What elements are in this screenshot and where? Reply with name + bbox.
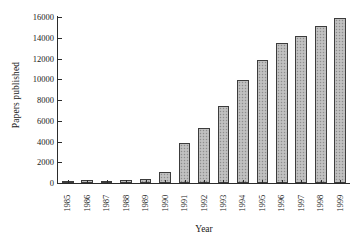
y-tick-label: 14000 bbox=[33, 34, 54, 43]
bar bbox=[295, 36, 307, 183]
x-tick-mark bbox=[87, 180, 88, 184]
y-tick-mark bbox=[57, 183, 62, 184]
y-tick-mark bbox=[57, 79, 62, 80]
bar bbox=[237, 80, 249, 183]
y-tick-label: 0 bbox=[50, 179, 54, 188]
y-tick-mark bbox=[57, 17, 62, 18]
y-tick-label: 6000 bbox=[37, 117, 54, 126]
x-tick-mark bbox=[126, 180, 127, 184]
x-tick-mark bbox=[165, 180, 166, 184]
y-tick-label: 4000 bbox=[37, 137, 54, 146]
chart-figure: Papers published 02000400060008000100001… bbox=[0, 0, 361, 244]
x-tick-mark bbox=[68, 180, 69, 184]
y-tick-mark bbox=[57, 59, 62, 60]
bar bbox=[315, 26, 327, 183]
x-tick-mark bbox=[243, 180, 244, 184]
x-tick-mark bbox=[146, 180, 147, 184]
y-tick-mark bbox=[57, 100, 62, 101]
y-tick-label: 2000 bbox=[37, 158, 54, 167]
y-tick-label: 12000 bbox=[33, 54, 54, 63]
bar bbox=[257, 60, 269, 183]
x-tick-mark bbox=[340, 180, 341, 184]
bar bbox=[218, 106, 230, 183]
x-axis-title: Year bbox=[58, 224, 350, 234]
x-tick-label: 1999 bbox=[320, 187, 360, 221]
y-tick-label: 16000 bbox=[33, 13, 54, 22]
x-tick-mark bbox=[282, 180, 283, 184]
y-tick-mark bbox=[57, 38, 62, 39]
bar bbox=[179, 143, 191, 183]
y-axis-title: Papers published bbox=[8, 0, 24, 190]
x-axis-title-text: Year bbox=[195, 224, 213, 234]
bar bbox=[276, 43, 288, 183]
y-tick-mark bbox=[57, 162, 62, 163]
y-tick-label: 10000 bbox=[33, 75, 54, 84]
x-tick-mark bbox=[321, 180, 322, 184]
x-tick-mark bbox=[107, 180, 108, 184]
x-tick-mark bbox=[223, 180, 224, 184]
x-tick-mark bbox=[204, 180, 205, 184]
y-tick-label: 8000 bbox=[37, 96, 54, 105]
x-tick-mark bbox=[185, 180, 186, 184]
bar bbox=[198, 128, 210, 183]
x-tick-label-text: 1999 bbox=[336, 195, 345, 212]
y-axis-title-text: Papers published bbox=[11, 62, 21, 128]
y-tick-mark bbox=[57, 142, 62, 143]
bar bbox=[334, 18, 346, 183]
x-tick-mark bbox=[301, 180, 302, 184]
x-tick-mark bbox=[262, 180, 263, 184]
plot-area: 0200040006000800010000120001400016000 bbox=[58, 17, 350, 183]
y-tick-mark bbox=[57, 121, 62, 122]
